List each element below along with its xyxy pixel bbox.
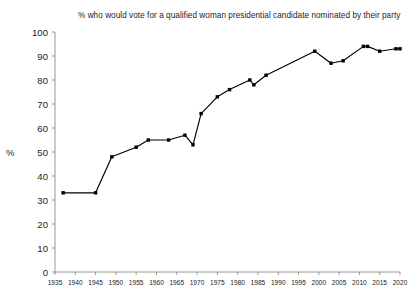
y-tick-label: 70 — [22, 99, 48, 110]
y-tick-label: 90 — [22, 51, 48, 62]
chart-plot-svg — [0, 0, 414, 305]
data-point-marker — [264, 74, 267, 77]
data-point-marker — [366, 45, 369, 48]
y-tick-label: 30 — [22, 195, 48, 206]
y-tick-label: 40 — [22, 171, 48, 182]
y-tick-label: 10 — [22, 243, 48, 254]
data-point-marker — [167, 138, 170, 141]
data-point-marker — [248, 78, 251, 81]
data-point-marker — [199, 112, 202, 115]
data-point-marker — [398, 47, 401, 50]
y-tick-label: 0 — [22, 267, 48, 278]
data-point-markers — [61, 45, 401, 195]
data-point-marker — [341, 59, 344, 62]
data-point-marker — [378, 50, 381, 53]
data-point-marker — [362, 45, 365, 48]
x-tick-label: 2020 — [385, 279, 414, 286]
data-line-series — [63, 46, 400, 192]
data-point-marker — [216, 95, 219, 98]
data-point-marker — [228, 88, 231, 91]
axis-lines — [55, 32, 400, 272]
y-tick-label: 100 — [22, 27, 48, 38]
y-tick-label: 20 — [22, 219, 48, 230]
y-tick-label: 50 — [22, 147, 48, 158]
data-point-marker — [191, 143, 194, 146]
chart-container: % who would vote for a qualified woman p… — [0, 0, 414, 305]
y-tick-label: 80 — [22, 75, 48, 86]
data-point-marker — [147, 138, 150, 141]
data-point-marker — [313, 50, 316, 53]
data-point-marker — [252, 83, 255, 86]
data-point-marker — [394, 47, 397, 50]
x-tick-marks — [55, 272, 400, 275]
data-point-marker — [110, 155, 113, 158]
data-point-marker — [329, 62, 332, 65]
data-point-marker — [183, 134, 186, 137]
data-point-marker — [94, 191, 97, 194]
y-tick-marks — [52, 32, 55, 272]
data-point-marker — [61, 191, 64, 194]
data-point-marker — [134, 146, 137, 149]
y-tick-label: 60 — [22, 123, 48, 134]
